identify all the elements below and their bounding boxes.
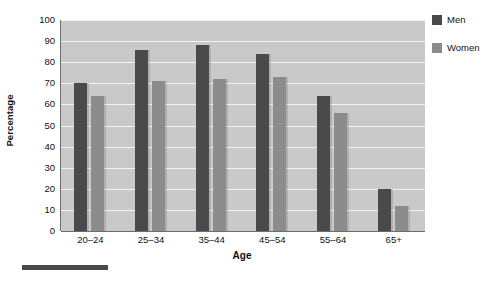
y-axis-tick-labels: 1009080706050403020100 [22, 20, 55, 231]
axis-baseline [61, 231, 425, 232]
x-tick-label: 65+ [359, 234, 429, 245]
x-tick-label: 35–44 [177, 234, 247, 245]
bar-group [135, 20, 165, 231]
bar-women-45-54 [273, 77, 286, 231]
bar-men-25-34 [135, 50, 148, 231]
plot-area [60, 20, 425, 231]
x-tick-label: 55–64 [298, 234, 368, 245]
chart-legend: MenWomen [432, 14, 504, 70]
bar-women-35-44 [213, 79, 226, 231]
y-tick-label: 10 [22, 205, 55, 215]
bar-women-55-64 [334, 113, 347, 231]
legend-item: Men [432, 14, 504, 25]
x-tick-label: 20–24 [55, 234, 125, 245]
bar-men-20-24 [74, 83, 87, 231]
y-tick-label: 80 [22, 57, 55, 67]
bar-women-20-24 [91, 96, 104, 231]
y-tick-label: 30 [22, 163, 55, 173]
bar-women-65+ [395, 206, 408, 231]
y-tick-label: 0 [22, 226, 55, 236]
y-tick-label: 20 [22, 184, 55, 194]
bar-group [74, 20, 104, 231]
legend-swatch-men [432, 15, 442, 25]
x-tick-label: 45–54 [237, 234, 307, 245]
bar-women-25-34 [152, 81, 165, 231]
y-tick-label: 60 [22, 100, 55, 110]
x-axis-tick-labels: 20–2425–3435–4445–5455–6465+ [60, 234, 424, 250]
x-tick-label: 25–34 [116, 234, 186, 245]
y-tick-label: 40 [22, 142, 55, 152]
bar-men-35-44 [196, 45, 209, 231]
y-tick-label: 70 [22, 79, 55, 89]
y-axis-title: Percentage [0, 60, 18, 180]
bar-group [196, 20, 226, 231]
legend-label: Women [447, 42, 480, 53]
bars-layer [61, 20, 425, 231]
bar-men-55-64 [317, 96, 330, 231]
legend-item: Women [432, 42, 504, 53]
y-tick-label: 50 [22, 121, 55, 131]
bar-men-65+ [378, 189, 391, 231]
y-axis-title-text: Percentage [4, 94, 15, 146]
bar-group [256, 20, 286, 231]
y-tick-label: 90 [22, 36, 55, 46]
y-tick-label: 100 [22, 15, 55, 25]
legend-label: Men [447, 14, 465, 25]
bar-men-45-54 [256, 54, 269, 231]
legend-swatch-women [432, 43, 442, 53]
bar-chart-figure: Percentage 1009080706050403020100 20–242… [0, 0, 504, 281]
caption-rule [22, 265, 108, 270]
bar-group [317, 20, 347, 231]
x-axis-title: Age [60, 250, 424, 261]
bar-group [378, 20, 408, 231]
